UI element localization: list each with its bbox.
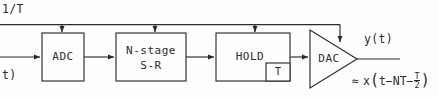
equation-term: t−NT−: [379, 74, 414, 88]
shift-register-label-line1: N-stage: [126, 44, 176, 57]
equation-fraction: T 2: [414, 72, 420, 91]
output-signal-label: y(t): [364, 34, 393, 46]
output-equation: ≈x(t−NT− T 2 ): [352, 72, 430, 91]
adc-label: ADC: [42, 51, 84, 62]
clock-rate-label: 1/T: [2, 4, 24, 16]
block-diagram: 1/T t) ADC N-stage S-R HOLD T DAC y(t) ≈…: [0, 0, 439, 97]
shift-register-label-line2: S-R: [140, 59, 161, 72]
equation-close-paren: ): [421, 71, 430, 89]
equation-function: x: [363, 74, 370, 88]
delay-tap-label: T: [266, 67, 290, 77]
hold-label: HOLD: [216, 51, 284, 62]
dac-label: DAC: [310, 53, 348, 64]
equation-open-paren: (: [370, 71, 379, 89]
approx-symbol: ≈: [352, 74, 359, 88]
equation-fraction-denominator: 2: [414, 81, 420, 90]
shift-register-label: N-stage S-R: [116, 44, 186, 74]
input-signal-label: t): [2, 70, 16, 82]
